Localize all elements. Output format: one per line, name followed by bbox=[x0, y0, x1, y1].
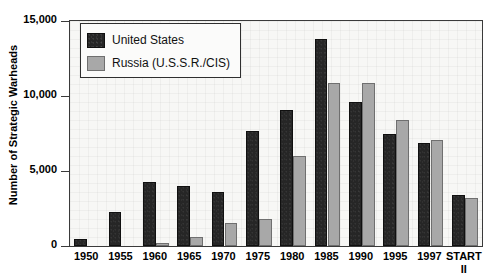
x-axis-tick-sublabel: II bbox=[436, 263, 491, 276]
bar-us-1965 bbox=[177, 186, 190, 246]
bar-us-start-ii bbox=[452, 195, 465, 246]
y-axis-tick-label: 10,000 bbox=[23, 88, 57, 100]
y-axis-tick: 0 bbox=[61, 246, 70, 247]
bar-russia-1995 bbox=[396, 120, 409, 246]
chart-legend: United States Russia (U.S.S.R./CIS) bbox=[80, 23, 241, 78]
legend-item-label: Russia (U.S.S.R./CIS) bbox=[112, 56, 230, 70]
legend-item-label: United States bbox=[112, 33, 184, 47]
y-axis-tick-label: 5,000 bbox=[29, 163, 57, 175]
bar-us-1980 bbox=[280, 110, 293, 247]
bar-russia-1960 bbox=[156, 243, 169, 246]
bar-russia-1975 bbox=[259, 219, 272, 246]
y-axis-tick: 10,000 bbox=[61, 96, 70, 97]
bar-russia-1997 bbox=[431, 140, 444, 246]
y-axis-tick: 15,000 bbox=[61, 21, 70, 22]
bar-russia-start-ii bbox=[465, 198, 478, 246]
y-axis-tick-label: 15,000 bbox=[23, 13, 57, 25]
bar-us-1955 bbox=[109, 212, 122, 247]
bar-russia-1990 bbox=[362, 83, 375, 247]
bar-russia-1965 bbox=[190, 237, 203, 246]
chart-figure: Number of Strategic Warheads 05,00010,00… bbox=[0, 0, 491, 280]
bar-us-1995 bbox=[383, 134, 396, 247]
bar-us-1950 bbox=[74, 239, 87, 246]
y-axis-tick-label: 0 bbox=[51, 238, 57, 250]
y-axis-title: Number of Strategic Warheads bbox=[4, 0, 22, 265]
bar-us-1970 bbox=[212, 192, 225, 246]
bar-us-1960 bbox=[143, 182, 156, 247]
legend-item-united-states: United States bbox=[87, 29, 234, 51]
bar-us-1990 bbox=[349, 102, 362, 246]
dark-swatch-icon bbox=[87, 33, 105, 48]
bar-russia-1985 bbox=[328, 83, 341, 247]
bar-us-1985 bbox=[315, 39, 328, 246]
bar-russia-1980 bbox=[293, 156, 306, 246]
bar-us-1997 bbox=[418, 143, 431, 247]
gray-swatch-icon bbox=[87, 56, 105, 71]
bar-us-1975 bbox=[246, 131, 259, 247]
legend-item-russia: Russia (U.S.S.R./CIS) bbox=[87, 52, 234, 74]
x-axis-tick-label: STARTII bbox=[436, 250, 491, 276]
bar-russia-1970 bbox=[225, 223, 238, 246]
y-axis-tick: 5,000 bbox=[61, 171, 70, 172]
